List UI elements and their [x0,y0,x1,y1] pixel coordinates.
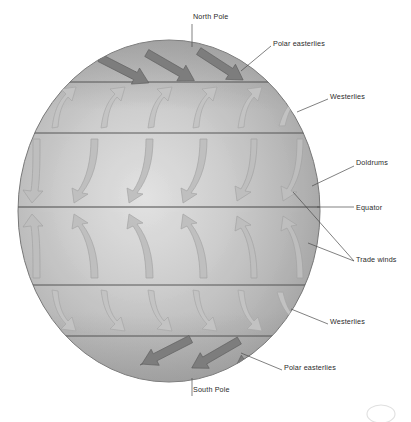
label-polar-easterlies-north: Polar easterlies [273,39,325,48]
page-artifact-icon [367,405,395,422]
leader-polar-easterlies-north [241,46,271,71]
label-westerlies-south: Westerlies [330,317,365,326]
leader-westerlies-south [291,309,328,324]
leader-doldrums [312,166,354,186]
label-north-pole: North Pole [193,12,228,21]
leader-polar-easterlies-south [241,353,282,370]
label-equator: Equator [356,203,382,212]
wind-circulation-diagram: North Pole Polar easterlies Westerlies D… [0,0,411,422]
leader-westerlies-north [297,99,328,112]
label-south-pole: South Pole [193,385,230,394]
label-westerlies-north: Westerlies [330,92,365,101]
label-doldrums: Doldrums [356,158,388,167]
label-trade-winds: Trade winds [356,255,397,264]
diagram-canvas [0,0,411,422]
label-polar-easterlies-south: Polar easterlies [284,363,336,372]
